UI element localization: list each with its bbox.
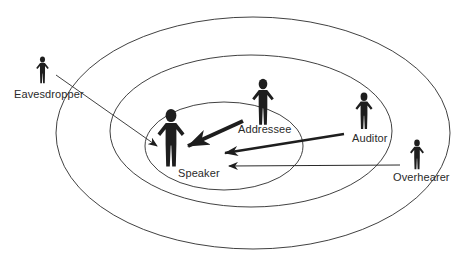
overhearer-person-icon: [410, 139, 424, 169]
auditor-arrow: [225, 134, 344, 153]
eavesdropper-person-icon: [36, 56, 49, 83]
eavesdropper-arrow: [56, 75, 157, 146]
addressee-label: Addressee: [238, 123, 292, 135]
speaker-label: Speaker: [178, 167, 220, 179]
addressee-arrow: [188, 121, 243, 146]
overhearer-label: Overhearer: [393, 171, 450, 183]
auditor-label: Auditor: [352, 132, 388, 144]
speaker-person-icon: [158, 109, 185, 167]
auditor-person-icon: [355, 93, 372, 129]
participant-roles-diagram: Eavesdropper Speaker Addressee Auditor O…: [0, 0, 464, 259]
eavesdropper-label: Eavesdropper: [14, 88, 84, 100]
addressee-person-icon: [252, 79, 274, 125]
diagram-canvas: [0, 0, 464, 259]
overhearer-arrow: [229, 165, 400, 166]
